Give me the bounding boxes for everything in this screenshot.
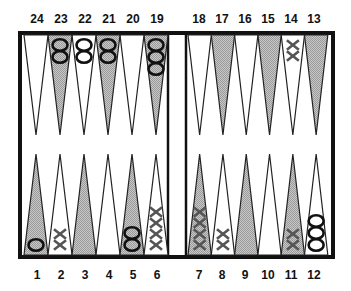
- point-label-10: 10: [256, 268, 280, 282]
- point-label-21: 21: [97, 12, 121, 26]
- point-label-3: 3: [73, 268, 97, 282]
- point-label-8: 8: [210, 268, 234, 282]
- point-label-18: 18: [187, 12, 211, 26]
- point-label-15: 15: [256, 12, 280, 26]
- point-label-14: 14: [279, 12, 303, 26]
- backgammon-board: 24 23 22 21 20 19 18 17 16 15 14 13 1 2 …: [0, 0, 351, 291]
- point-label-17: 17: [210, 12, 234, 26]
- point-label-24: 24: [25, 12, 49, 26]
- point-label-20: 20: [121, 12, 145, 26]
- point-label-11: 11: [279, 268, 303, 282]
- point-label-13: 13: [302, 12, 326, 26]
- point-label-23: 23: [49, 12, 73, 26]
- point-label-7: 7: [187, 268, 211, 282]
- point-label-9: 9: [233, 268, 257, 282]
- board-graphic: [0, 0, 351, 291]
- point-label-12: 12: [302, 268, 326, 282]
- point-label-16: 16: [233, 12, 257, 26]
- point-label-19: 19: [145, 12, 169, 26]
- point-label-1: 1: [25, 268, 49, 282]
- point-label-6: 6: [145, 268, 169, 282]
- point-label-2: 2: [49, 268, 73, 282]
- point-label-22: 22: [73, 12, 97, 26]
- point-label-5: 5: [121, 268, 145, 282]
- point-label-4: 4: [97, 268, 121, 282]
